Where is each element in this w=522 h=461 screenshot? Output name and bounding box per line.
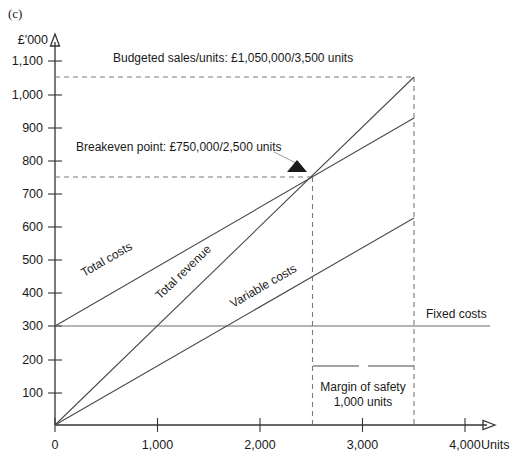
- x-axis-title: Units: [481, 438, 509, 452]
- y-axis-tick-labels: 100 200 300 400 500 600 700 800 900 1,00…: [12, 54, 43, 400]
- annotation-budgeted-sales: Budgeted sales/units: £1,050,000/3,500 u…: [113, 51, 353, 65]
- y-tick-label-300: 300: [22, 319, 43, 333]
- x-tick-label-0: 0: [52, 438, 59, 452]
- margin-of-safety-label-line2: 1,000 units: [334, 395, 393, 409]
- x-tick-label-4000: 4,000: [449, 438, 480, 452]
- y-tick-label-700: 700: [22, 187, 43, 201]
- y-tick-label-1000: 1,000: [12, 88, 43, 102]
- y-tick-label-800: 800: [22, 154, 43, 168]
- x-axis-tick-labels: 0 1,000 2,000 3,000 4,000: [52, 438, 481, 452]
- x-tick-label-2000: 2,000: [244, 438, 275, 452]
- series-label-total-revenue: Total revenue: [152, 242, 214, 302]
- y-tick-label-900: 900: [22, 121, 43, 135]
- breakeven-chart-svg: 100 200 300 400 500 600 700 800 900 1,00…: [0, 0, 522, 461]
- margin-of-safety-label-line1: Margin of safety: [320, 380, 405, 394]
- series-label-fixed-costs: Fixed costs: [426, 307, 487, 321]
- y-axis: [51, 34, 60, 425]
- series-label-variable-costs: Variable costs: [228, 261, 300, 310]
- y-tick-label-500: 500: [22, 253, 43, 267]
- y-tick-label-100: 100: [22, 386, 43, 400]
- x-tick-label-1000: 1,000: [142, 438, 173, 452]
- y-tick-label-200: 200: [22, 353, 43, 367]
- series-label-total-costs: Total costs: [79, 239, 135, 279]
- breakeven-marker-triangle: [287, 160, 307, 172]
- y-tick-label-600: 600: [22, 220, 43, 234]
- y-axis-title: £'000: [18, 33, 48, 47]
- x-axis: [55, 421, 495, 430]
- y-tick-label-400: 400: [22, 286, 43, 300]
- breakeven-chart-figure: (c) 100 200 300 40: [0, 0, 522, 461]
- x-tick-label-3000: 3,000: [347, 438, 378, 452]
- y-tick-label-1100: 1,100: [12, 54, 43, 68]
- annotation-breakeven-point: Breakeven point: £750,000/2,500 units: [76, 140, 282, 154]
